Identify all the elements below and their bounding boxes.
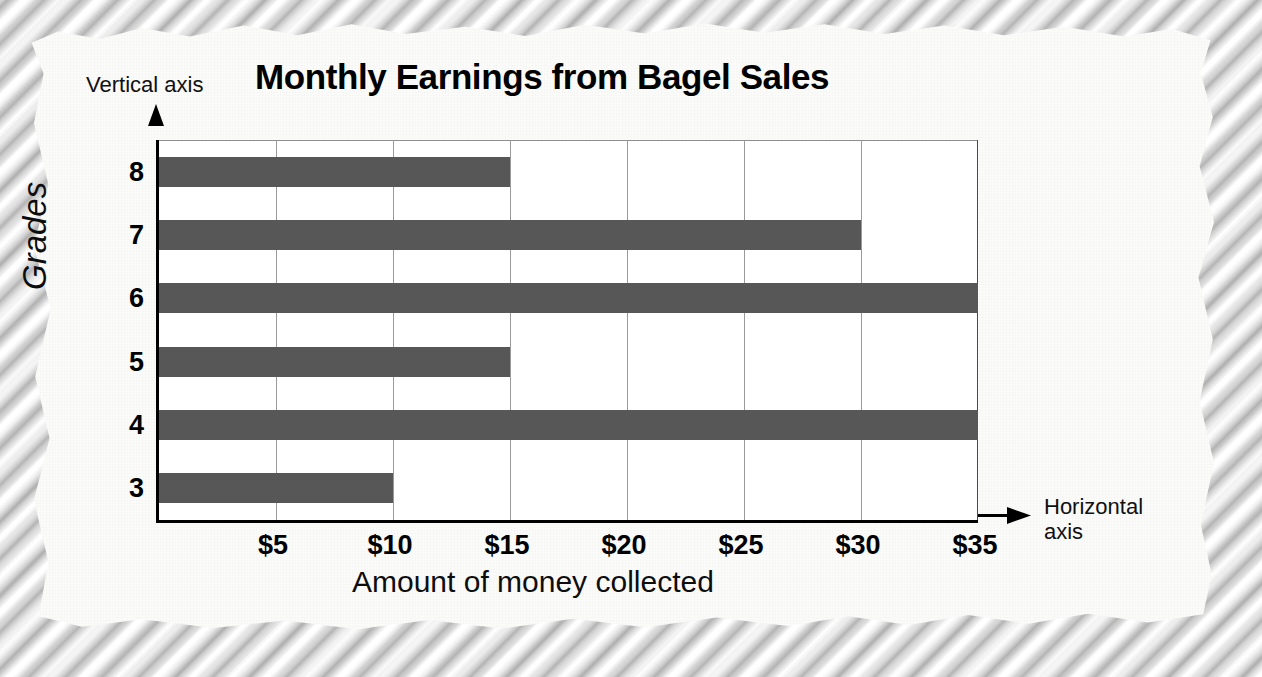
- horizontal-axis-annotation-line2: axis: [1044, 520, 1174, 545]
- y-tick-label-8: 8: [104, 156, 144, 187]
- plot-top-edge: [159, 140, 978, 141]
- x-tick-label-usd20: $20: [601, 530, 646, 561]
- y-axis-tick-labels: 876543: [100, 140, 144, 520]
- chart-title: Monthly Earnings from Bagel Sales: [255, 57, 829, 97]
- gridline: [393, 140, 394, 520]
- bar-grade-7: [159, 220, 861, 250]
- x-tick-label-usd5: $5: [258, 530, 288, 561]
- y-tick-label-6: 6: [104, 283, 144, 314]
- y-tick-label-7: 7: [104, 220, 144, 251]
- plot-area: [156, 140, 978, 523]
- bar-grade-8: [159, 157, 510, 187]
- bar-grade-3: [159, 473, 393, 503]
- gridline: [510, 140, 511, 520]
- gridline: [276, 140, 277, 520]
- x-tick-label-usd30: $30: [835, 530, 880, 561]
- y-tick-label-4: 4: [104, 410, 144, 441]
- x-tick-label-usd10: $10: [367, 530, 412, 561]
- horizontal-axis-annotation: Horizontal axis: [1044, 495, 1174, 544]
- gridline: [627, 140, 628, 520]
- x-axis-tick-labels: $5$10$15$20$25$30$35: [156, 530, 975, 566]
- y-axis-title: Grades: [16, 182, 54, 290]
- x-tick-label-usd35: $35: [952, 530, 997, 561]
- horizontal-axis-arrow: [975, 506, 1033, 528]
- x-axis-title: Amount of money collected: [352, 565, 714, 599]
- gridline: [744, 140, 745, 520]
- screenshot-root: Vertical axis Horizontal axis Monthly Ea…: [0, 0, 1262, 677]
- x-tick-label-usd15: $15: [484, 530, 529, 561]
- x-tick-label-usd25: $25: [718, 530, 763, 561]
- y-tick-label-5: 5: [104, 346, 144, 377]
- vertical-axis-annotation: Vertical axis: [86, 72, 203, 98]
- horizontal-axis-annotation-line1: Horizontal: [1044, 495, 1174, 520]
- bar-grade-6: [159, 283, 978, 313]
- bar-grade-5: [159, 347, 510, 377]
- y-tick-label-3: 3: [104, 473, 144, 504]
- plot-right-edge: [977, 140, 978, 520]
- bar-grade-4: [159, 410, 978, 440]
- gridline: [861, 140, 862, 520]
